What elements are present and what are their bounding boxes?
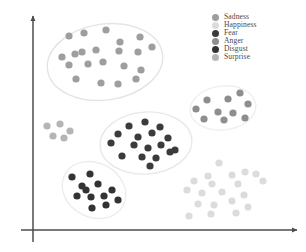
data-point: [43, 122, 50, 129]
data-point: [65, 32, 72, 39]
data-point: [241, 114, 248, 121]
data-point: [252, 170, 259, 177]
data-point: [210, 201, 217, 208]
data-point: [88, 204, 95, 211]
data-point: [136, 33, 143, 40]
data-point: [214, 108, 221, 115]
data-point: [241, 168, 248, 175]
data-point: [183, 186, 190, 193]
data-point: [208, 180, 215, 187]
data-point: [200, 115, 207, 122]
data-point: [78, 48, 85, 55]
data-point: [73, 192, 80, 199]
data-point: [125, 122, 132, 129]
cluster-happiness: [183, 159, 266, 219]
data-point: [72, 75, 79, 82]
data-point: [148, 43, 155, 50]
data-point: [207, 210, 214, 217]
data-point: [97, 79, 104, 86]
legend: SadnessHappinessFearAngerDisgustSurprise: [212, 13, 304, 62]
data-point: [71, 50, 78, 57]
data-point: [244, 203, 251, 210]
data-point: [259, 177, 266, 184]
data-point: [232, 209, 239, 216]
data-point: [215, 159, 222, 166]
data-point: [240, 191, 247, 198]
data-point: [94, 180, 101, 187]
data-point: [141, 118, 148, 125]
data-point: [204, 172, 211, 179]
data-point: [220, 116, 227, 123]
data-point: [229, 109, 236, 116]
legend-swatch-icon: [212, 14, 219, 21]
legend-swatch-icon: [212, 46, 219, 53]
data-point: [134, 48, 141, 55]
cluster-surprise: [43, 120, 73, 141]
data-point: [164, 134, 171, 141]
cluster-fear: [107, 118, 178, 169]
scatter-plot-figure: SadnessHappinessFearAngerDisgustSurprise: [0, 0, 306, 252]
data-point: [66, 127, 73, 134]
data-point: [152, 154, 159, 161]
data-point: [102, 201, 109, 208]
data-point: [132, 75, 139, 82]
legend-swatch-icon: [212, 38, 219, 45]
data-point: [114, 196, 121, 203]
data-point: [138, 153, 145, 160]
data-point: [156, 123, 163, 130]
data-point: [58, 53, 65, 60]
data-point: [65, 61, 72, 68]
data-point: [80, 29, 87, 36]
legend-item-surprise[interactable]: Surprise: [212, 53, 304, 61]
legend-swatch-icon: [212, 22, 219, 29]
data-point: [228, 171, 235, 178]
data-point: [157, 141, 164, 148]
data-point: [137, 66, 144, 73]
data-point: [107, 139, 114, 146]
cluster-anger: [192, 89, 251, 123]
legend-item-label: Surprise: [224, 53, 250, 61]
data-point: [198, 189, 205, 196]
data-point: [203, 96, 210, 103]
data-point: [60, 134, 67, 141]
data-point: [87, 193, 94, 200]
data-point: [130, 141, 137, 148]
data-point: [102, 26, 109, 33]
data-point: [192, 105, 199, 112]
cluster-disgust: [68, 170, 121, 211]
data-point: [144, 144, 151, 151]
data-point: [190, 177, 197, 184]
data-point: [218, 188, 225, 195]
data-point: [56, 120, 63, 127]
data-point: [194, 200, 201, 207]
data-point: [120, 62, 127, 69]
data-point: [86, 170, 93, 177]
data-point: [68, 173, 75, 180]
data-point: [92, 46, 99, 53]
data-point: [115, 47, 122, 54]
data-point: [114, 130, 121, 137]
data-point: [228, 197, 235, 204]
cluster-sadness: [58, 26, 155, 87]
data-point: [148, 129, 155, 136]
data-point: [82, 186, 89, 193]
data-point: [116, 38, 123, 45]
data-point: [49, 132, 56, 139]
data-point: [224, 95, 231, 102]
legend-swatch-icon: [212, 30, 219, 37]
data-point: [185, 212, 192, 219]
data-point: [244, 100, 251, 107]
cluster-outline-disgust: [52, 151, 136, 230]
data-point: [134, 133, 141, 140]
data-point: [146, 162, 153, 169]
data-point: [236, 89, 243, 96]
data-point: [234, 180, 241, 187]
legend-swatch-icon: [212, 54, 219, 61]
data-point: [84, 60, 91, 67]
data-point: [99, 58, 106, 65]
data-point: [166, 148, 173, 155]
data-point: [118, 152, 125, 159]
data-point: [114, 80, 121, 87]
data-point: [108, 186, 115, 193]
data-point: [100, 192, 107, 199]
